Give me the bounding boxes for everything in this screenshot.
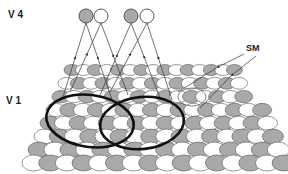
label-sm: SM <box>246 43 260 53</box>
v4-v1-diagram: V 4 V 1 SM <box>0 0 288 174</box>
projection-line <box>131 23 144 57</box>
v4-neuron <box>94 9 108 23</box>
projection-line <box>117 23 131 55</box>
v1-unit-grey <box>235 90 253 102</box>
v4-neuron <box>124 9 138 23</box>
projection-line <box>101 23 113 55</box>
label-v1: V 1 <box>6 95 21 106</box>
v1-unit-grid <box>22 65 288 172</box>
v1-unit-grey <box>262 129 283 144</box>
v4-neuron <box>140 9 154 23</box>
projection-line <box>87 23 101 54</box>
v4-neuron <box>79 9 93 23</box>
diagram-canvas: V 4 V 1 SM <box>0 0 288 174</box>
projection-line <box>147 23 158 58</box>
v1-unit-white <box>258 116 278 130</box>
label-v4: V 4 <box>8 9 23 20</box>
projection-line <box>75 23 86 58</box>
v4-neurons <box>79 9 154 23</box>
v1-unit-grey <box>253 103 272 116</box>
v1-unit-grey <box>226 65 242 76</box>
v1-unit-white <box>231 77 248 89</box>
